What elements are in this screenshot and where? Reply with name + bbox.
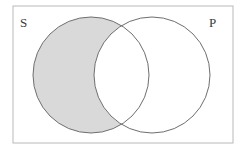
venn-diagram-figure: S P: [0, 0, 241, 156]
venn-diagram-canvas: S P: [0, 0, 241, 156]
s-minus-p-shaded-region: [33, 17, 149, 133]
label-p: P: [209, 15, 216, 30]
label-s: S: [20, 15, 27, 30]
